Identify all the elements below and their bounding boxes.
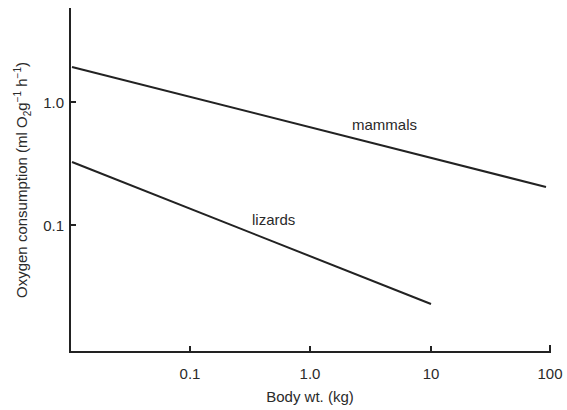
lizards-line xyxy=(72,162,431,304)
y-tick-label: 1.0 xyxy=(43,94,64,111)
x-tick-label: 10 xyxy=(423,365,440,382)
x-tick-label: 0.1 xyxy=(180,365,201,382)
x-tick-label: 1.0 xyxy=(300,365,321,382)
mammals-line xyxy=(72,67,546,187)
lizards-label: lizards xyxy=(252,211,295,228)
chart: 1.0 0.1 0.1 1.0 10 100 Body wt. (kg) Oxy… xyxy=(0,0,567,410)
y-tick-label: 0.1 xyxy=(43,217,64,234)
x-tick-label: 100 xyxy=(537,365,562,382)
mammals-label: mammals xyxy=(352,116,417,133)
y-axis-label: Oxygen consumption (ml O2g−1 h−1) xyxy=(12,62,33,298)
x-axis-label: Body wt. (kg) xyxy=(266,388,354,405)
